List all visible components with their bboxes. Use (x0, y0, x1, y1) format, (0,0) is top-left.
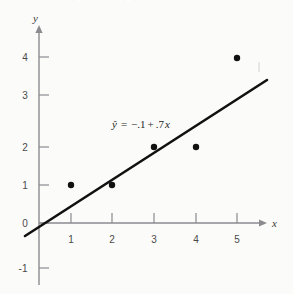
x-ticklabel-5: 5 (234, 234, 240, 245)
y-axis-label: y (32, 12, 38, 24)
data-point (109, 182, 115, 188)
intercept-term: −.1 (131, 118, 145, 130)
data-point (68, 182, 74, 188)
x-ticklabel-3: 3 (151, 234, 157, 245)
plot-canvas: y x 4 3 2 1 0 -1 1 2 3 4 5 (0, 0, 293, 294)
y-ticklabel-1: 1 (22, 180, 28, 191)
x-ticklabel-1: 1 (68, 234, 74, 245)
slope-term: .7 (156, 118, 165, 130)
scatter-plot-figure: · · · · · · · · y x 4 3 2 1 0 -1 1 2 3 4 (0, 0, 293, 294)
y-ticklabel-2: 2 (22, 142, 28, 153)
y-hat-symbol: ŷ (111, 118, 117, 130)
regression-line (25, 80, 267, 236)
y-ticklabel-4: 4 (22, 52, 28, 63)
y-ticklabel-minus-1: -1 (19, 263, 28, 274)
x-axis-label: x (271, 217, 277, 229)
data-point (234, 55, 240, 61)
plus-symbol: + (148, 118, 154, 130)
data-point (193, 144, 199, 150)
x-variable-symbol: x (164, 118, 170, 130)
equals-symbol: = (121, 118, 127, 130)
y-axis-arrowhead (35, 25, 42, 33)
y-ticklabel-3: 3 (22, 90, 28, 101)
data-point (151, 144, 157, 150)
regression-equation-text: ŷ=−.1+.7x (111, 118, 170, 130)
x-ticklabel-4: 4 (193, 234, 199, 245)
y-ticklabel-0: 0 (22, 218, 28, 229)
x-axis-arrowhead (259, 219, 267, 226)
x-ticklabel-2: 2 (109, 234, 115, 245)
cropped-header-text: · · · · · · · · (0, 0, 293, 12)
